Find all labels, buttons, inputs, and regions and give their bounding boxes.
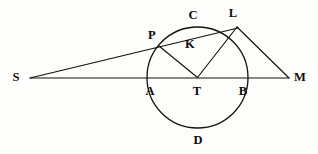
segment-s-to-l: [30, 28, 238, 78]
point-label-m: M: [294, 71, 306, 84]
figure-canvas: [0, 0, 318, 154]
point-label-a: A: [145, 85, 154, 98]
segment-l-to-m: [237, 27, 289, 78]
point-label-s: S: [12, 71, 19, 84]
point-label-p: P: [148, 29, 156, 42]
point-label-t: T: [193, 85, 202, 98]
point-label-b: B: [239, 85, 248, 98]
point-label-d: D: [193, 134, 202, 147]
point-label-l: L: [229, 7, 238, 20]
segment-t-to-l: [198, 27, 238, 78]
point-label-c: C: [188, 9, 197, 22]
geometry-figure: S M A B T C D P L K: [0, 0, 318, 154]
point-label-k: K: [185, 38, 195, 51]
